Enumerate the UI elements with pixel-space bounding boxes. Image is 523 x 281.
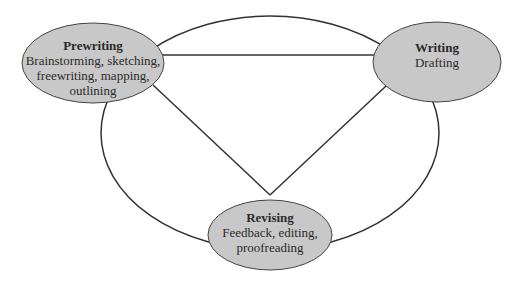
edge-writing-revising <box>270 86 386 195</box>
node-title: Writing <box>377 40 497 55</box>
node-title: Revising <box>210 210 330 225</box>
node-desc-line: freewriting, mapping, <box>23 68 163 83</box>
node-desc-line: Drafting <box>377 55 497 70</box>
node-desc-line: Feedback, editing, <box>210 225 330 240</box>
node-desc-line: Brainstorming, sketching, <box>23 53 163 68</box>
node-desc-line: outlining <box>23 83 163 98</box>
node-prewriting: Prewriting Brainstorming, sketching, fre… <box>23 38 163 98</box>
node-writing: Writing Drafting <box>377 40 497 70</box>
node-desc-line: proofreading <box>210 240 330 255</box>
edge-prewriting-revising <box>153 85 270 195</box>
node-revising: Revising Feedback, editing, proofreading <box>210 210 330 255</box>
node-title: Prewriting <box>23 38 163 53</box>
